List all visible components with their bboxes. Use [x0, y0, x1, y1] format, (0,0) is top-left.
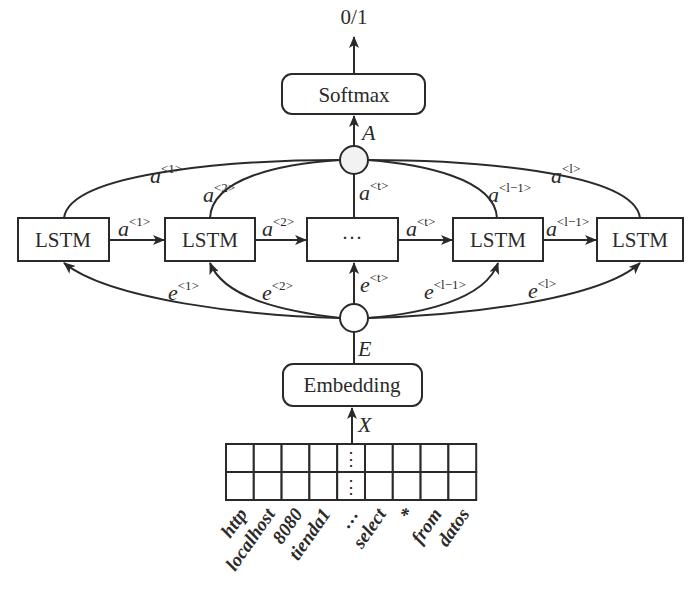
hidden-arrow-label-l-minus-1: a<l−1> [546, 214, 589, 241]
embedding-edge-label-l-minus-1: e<l−1> [424, 277, 466, 304]
token-label: datos [433, 504, 474, 550]
matrix-cell [226, 472, 254, 500]
lstm-attention-diagram: 0/1 Softmax A a<1> a<2> a<t> a<l−1> a<l>… [0, 0, 698, 609]
lstm-cell-2-label: LSTM [182, 228, 238, 252]
matrix-cell [254, 444, 282, 472]
token-labels: httplocalhost8080tienda1…select*fromdato… [216, 504, 473, 575]
matrix-cell [282, 444, 310, 472]
lstm-cell-l-label: LSTM [612, 228, 668, 252]
matrix-cell [421, 444, 449, 472]
attention-edge-label-l-minus-1: a<l−1> [488, 180, 531, 207]
embedding-edge-1 [64, 263, 340, 318]
attention-edge-label-2: a<2> [203, 180, 235, 207]
matrix-cell [309, 444, 337, 472]
attention-edge-label-l: a<l> [551, 161, 580, 188]
matrix-cell [309, 472, 337, 500]
matrix-cell [226, 444, 254, 472]
attention-edge-label-1: a<1> [150, 161, 182, 188]
attention-node [340, 146, 368, 174]
softmax-label: Softmax [318, 83, 390, 107]
hidden-arrow-label-1: a<1> [118, 214, 150, 241]
matrix-cell [448, 444, 476, 472]
matrix-cell [365, 472, 393, 500]
matrix-cell [421, 472, 449, 500]
embedding-node [340, 304, 368, 332]
hidden-arrow-label-2: a<2> [262, 214, 294, 241]
matrix-vertical-ellipsis: ⋮ [342, 449, 360, 469]
lstm-cell-1-label: LSTM [35, 228, 91, 252]
attention-symbol: A [360, 120, 376, 145]
output-label: 0/1 [341, 5, 368, 29]
attention-edge-1 [64, 160, 340, 218]
embedding-symbol: E [357, 336, 372, 361]
lstm-cell-l-minus-1-label: LSTM [470, 228, 526, 252]
hidden-arrow-label-t: a<t> [406, 214, 435, 241]
input-symbol: X [357, 412, 373, 437]
lstm-cell-t-label: ··· [342, 226, 363, 250]
matrix-cell [393, 472, 421, 500]
matrix-vertical-ellipsis: ⋮ [342, 477, 360, 497]
embedding-edge-label-1: e<1> [168, 278, 199, 305]
matrix-cell [282, 472, 310, 500]
input-matrix: ⋮⋮ [226, 444, 476, 500]
matrix-cell [365, 444, 393, 472]
token-label: * [395, 504, 418, 524]
matrix-cell [393, 444, 421, 472]
matrix-cell [448, 472, 476, 500]
embedding-label: Embedding [304, 373, 401, 397]
matrix-cell [254, 472, 282, 500]
embedding-edge-label-t: e<t> [360, 270, 388, 297]
attention-edge-label-t: a<t> [359, 178, 388, 205]
embedding-edge-l [368, 263, 640, 318]
embedding-edge-label-2: e<2> [262, 278, 293, 305]
